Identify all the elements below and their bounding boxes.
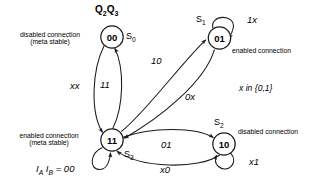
edge-label-10-self: x1 bbox=[249, 157, 259, 167]
state-label-S2: S2 bbox=[214, 118, 224, 129]
diagram-title: Q2Q3 bbox=[95, 5, 118, 18]
state-node-01[interactable]: 01 bbox=[208, 27, 230, 49]
state-label-S0: S0 bbox=[126, 32, 136, 43]
state-node-10[interactable]: 10 bbox=[213, 133, 235, 155]
x-domain-note: x in {0,1} bbox=[239, 84, 272, 93]
state-node-00-value: 00 bbox=[107, 32, 118, 43]
annotation-S0-line2: (meta stable) bbox=[4, 38, 96, 45]
state-node-11[interactable]: 11 bbox=[101, 129, 123, 151]
input-formula: IA IB = 00 bbox=[36, 164, 74, 176]
annotation-S1: enabled connection bbox=[232, 47, 291, 54]
edge-01-to-11 bbox=[124, 49, 214, 138]
edge-label-11-01: 10 bbox=[151, 56, 162, 66]
annotation-S3-line2: (meta stable) bbox=[2, 139, 96, 146]
annotation-S3-line1: enabled connection bbox=[2, 132, 96, 139]
state-label-S1: S1 bbox=[196, 15, 206, 26]
diagram-graphics: 00 01 11 10 bbox=[0, 0, 323, 186]
state-node-11-value: 11 bbox=[107, 135, 118, 146]
annotation-S0-line1: disabled connection bbox=[4, 31, 96, 38]
annotation-S2: disabled connection bbox=[238, 128, 298, 135]
state-node-01-value: 01 bbox=[214, 33, 225, 44]
annotation-S1-line1: enabled connection bbox=[232, 47, 291, 54]
state-diagram: 00 01 11 10 Q2Q3 S0 S1 S2 S3 disabled co… bbox=[0, 0, 323, 186]
edge-label-11-10: 01 bbox=[161, 140, 172, 150]
edge-label-01-self: 1x bbox=[247, 15, 257, 25]
state-node-10-value: 10 bbox=[219, 139, 230, 150]
edge-11-to-00 bbox=[113, 48, 122, 129]
state-node-00[interactable]: 00 bbox=[101, 26, 123, 48]
annotation-S3: enabled connection (meta stable) bbox=[2, 132, 96, 147]
edge-label-11-00: 11 bbox=[100, 80, 110, 90]
edge-label-10-11: x0 bbox=[160, 165, 170, 175]
state-label-S3: S3 bbox=[124, 150, 134, 161]
edge-11-to-01 bbox=[121, 40, 206, 132]
annotation-S2-line1: disabled connection bbox=[238, 128, 298, 135]
annotation-S0: disabled connection (meta stable) bbox=[4, 31, 96, 46]
edge-label-01-11: 0x bbox=[185, 92, 195, 102]
edge-label-00-11: xx bbox=[70, 81, 80, 91]
